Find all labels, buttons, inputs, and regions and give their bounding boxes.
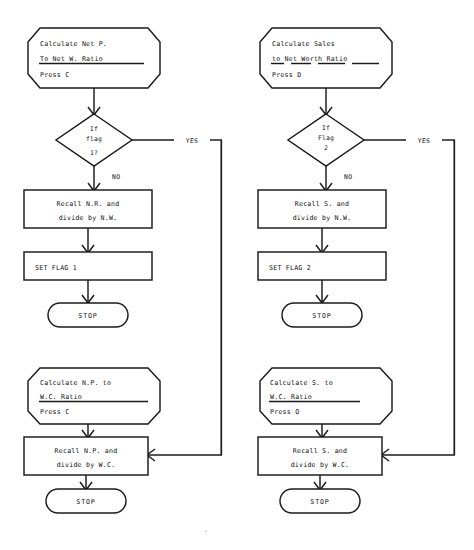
right-connector-process2-stop1 (316, 280, 328, 303)
left-decision-1-line3: 1? (90, 149, 98, 156)
right-connector-input2-process3 (316, 424, 328, 438)
left-decision-1[interactable]: If flag 1? (56, 114, 132, 166)
left-yes-label: YES (186, 137, 198, 145)
left-terminator-2-label: STOP (76, 498, 95, 506)
right-terminator-2-label: STOP (310, 498, 329, 506)
left-decision-1-line1: If (90, 125, 98, 132)
left-input-box-1[interactable]: Calculate Net P. To Net W. Ratio Press C (28, 28, 160, 88)
right-yes-label: YES (418, 137, 430, 145)
scan-artifact-speck (205, 530, 207, 532)
right-input-box-1-line2: to Net Worth Ratio (272, 55, 347, 63)
right-terminator-1-label: STOP (312, 312, 331, 320)
right-input-box-1-line3: Press D (272, 71, 301, 79)
right-decision-1-line1: If (322, 124, 330, 131)
right-connector-process1-process2 (316, 228, 328, 253)
left-input-box-1-line3: Press C (40, 71, 69, 79)
right-input-box-2-line3: Press O (270, 408, 299, 416)
left-process-3[interactable]: Recall N.P. and divide by W.C. (24, 437, 148, 475)
right-process-3-line1: Recall S. and (293, 447, 347, 455)
left-connector-input2-process3 (82, 424, 94, 438)
right-terminator-1[interactable]: STOP (282, 303, 362, 327)
right-process-1-line1: Recall S. and (295, 200, 349, 208)
left-connector-input1-decision1 (88, 88, 100, 115)
right-input-box-2-line2: W.C. Ratio (270, 393, 312, 401)
left-no-label: NO (112, 173, 120, 181)
right-process-1[interactable]: Recall S. and divide by N.W. (258, 190, 386, 228)
right-terminator-2[interactable]: STOP (280, 489, 360, 513)
left-process-3-line1: Recall N.P. and (55, 447, 118, 455)
right-no-branch: NO (320, 166, 352, 191)
left-process-3-line2: divide by W.C. (57, 461, 116, 469)
right-connector-input1-decision1 (320, 88, 332, 115)
left-terminator-1-label: STOP (78, 312, 97, 320)
right-decision-1-line3: 2 (324, 144, 328, 151)
right-input-box-2-line1: Calculate S. to (270, 379, 333, 387)
left-connector-process3-stop2 (80, 475, 92, 490)
left-input-box-2-line3: Press C (40, 408, 69, 416)
right-input-box-1-line1: Calculate Sales (272, 40, 335, 48)
left-no-branch: NO (88, 166, 120, 191)
right-input-box-2[interactable]: Calculate S. to W.C. Ratio Press O (260, 368, 392, 424)
left-input-box-2-line2: W.C. Ratio (40, 393, 82, 401)
left-input-box-1-line2: To Net W. Ratio (40, 55, 103, 63)
right-connector-process3-stop2 (314, 475, 326, 490)
right-process-3-line2: divide by W.C. (291, 461, 350, 469)
left-terminator-2[interactable]: STOP (46, 489, 126, 513)
right-process-1-line2: divide by N.W. (293, 214, 352, 222)
left-process-1-line2: divide by N.W. (59, 214, 118, 222)
right-process-2[interactable]: SET FLAG 2 (258, 252, 386, 280)
left-connector-process2-stop1 (82, 280, 94, 303)
right-input-box-1[interactable]: Calculate Sales to Net Worth Ratio Press… (260, 28, 392, 88)
left-process-1-line1: Recall N.R. and (57, 200, 120, 208)
left-terminator-1[interactable]: STOP (48, 303, 128, 327)
left-process-2[interactable]: SET FLAG 1 (24, 252, 152, 280)
left-input-box-2-line1: Calculate N.P. to (40, 379, 111, 387)
left-process-1[interactable]: Recall N.R. and divide by N.W. (24, 190, 152, 228)
right-process-3[interactable]: Recall S. and divide by W.C. (258, 437, 382, 475)
right-decision-1[interactable]: If Flag 2 (288, 114, 364, 166)
left-process-2-line1: SET FLAG 1 (35, 264, 77, 272)
flowchart-sheet: Calculate Net P. To Net W. Ratio Press C… (0, 0, 474, 550)
flowchart-canvas: Calculate Net P. To Net W. Ratio Press C… (0, 0, 474, 550)
right-no-label: NO (344, 173, 352, 181)
left-input-box-2[interactable]: Calculate N.P. to W.C. Ratio Press C (28, 368, 160, 424)
left-decision-1-line2: flag (86, 135, 102, 143)
right-decision-1-line2: Flag (318, 134, 334, 142)
right-process-2-line1: SET FLAG 2 (269, 264, 311, 272)
left-input-box-1-line1: Calculate Net P. (40, 40, 107, 48)
left-connector-process1-process2 (82, 228, 94, 253)
